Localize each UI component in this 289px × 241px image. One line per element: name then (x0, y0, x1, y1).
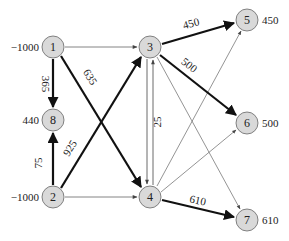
node-7-label: 7 (244, 213, 250, 227)
node-6-label: 6 (244, 116, 250, 130)
node-3-label: 3 (147, 40, 153, 54)
flow-label-3-5: 450 (181, 15, 201, 31)
network-flow-diagram: 365 635 75 925 450 500 25 610 1 2 3 4 5 (0, 0, 289, 241)
node-7: 7 (236, 209, 258, 231)
supply-node-1: −1000 (11, 41, 40, 53)
edge-4-6 (161, 130, 236, 192)
supply-node-7: 610 (262, 214, 279, 226)
flow-label-2-3: 925 (60, 137, 79, 158)
flow-label-4-7: 610 (189, 193, 208, 208)
supply-node-2: −1000 (11, 191, 40, 203)
supply-node-6: 500 (262, 117, 279, 129)
node-8: 8 (42, 109, 64, 131)
edge-3-7 (157, 57, 240, 209)
flow-label-1-8: 365 (40, 76, 52, 93)
nodes: 1 2 3 4 5 6 7 8 (42, 9, 258, 231)
node-2: 2 (42, 186, 64, 208)
node-8-label: 8 (50, 113, 56, 127)
flow-label-2-8: 75 (32, 157, 44, 169)
node-1-label: 1 (50, 40, 56, 54)
node-3: 3 (139, 36, 161, 58)
supply-node-8: 440 (23, 114, 40, 126)
node-5-label: 5 (244, 13, 250, 27)
node-4-label: 4 (147, 190, 153, 204)
node-1: 1 (42, 36, 64, 58)
node-6: 6 (236, 112, 258, 134)
flow-label-4-3: 25 (151, 116, 163, 128)
node-4: 4 (139, 186, 161, 208)
node-5: 5 (236, 9, 258, 31)
flow-label-1-4: 635 (81, 67, 100, 88)
node-2-label: 2 (50, 190, 56, 204)
supply-node-5: 450 (262, 14, 279, 26)
